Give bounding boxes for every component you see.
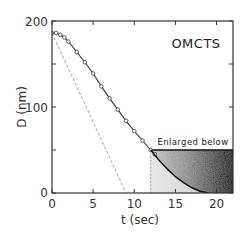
data-point [100,85,104,89]
omcts-label: OMCTS [171,36,220,51]
data-point [58,33,62,37]
chart: 051015200100200 t (sec) D (nm) OMCTS Enl… [0,0,247,236]
data-point [116,108,120,112]
series-2 [52,33,126,193]
data-point [141,139,145,143]
data-point [108,97,112,101]
data-point [91,72,95,76]
x-tick-label: 10 [127,197,142,211]
y-tick-label: 200 [25,15,48,29]
data-point [67,40,71,44]
y-axis-label: D (nm) [15,86,29,128]
enlarged-region [151,150,233,193]
enlarged-below-label: Enlarged below [157,137,228,147]
data-point [75,50,79,54]
data-point [63,36,67,40]
data-point [132,129,136,133]
data-point [83,60,87,64]
x-tick-label: 5 [89,197,97,211]
x-tick-label: 20 [209,197,224,211]
x-tick-label: 15 [168,197,183,211]
y-tick-label: 0 [40,186,48,200]
series-0 [52,33,155,154]
data-point [124,119,128,123]
data-point [54,31,58,35]
x-tick-label: 0 [48,197,56,211]
x-axis-label: t (sec) [121,213,159,227]
